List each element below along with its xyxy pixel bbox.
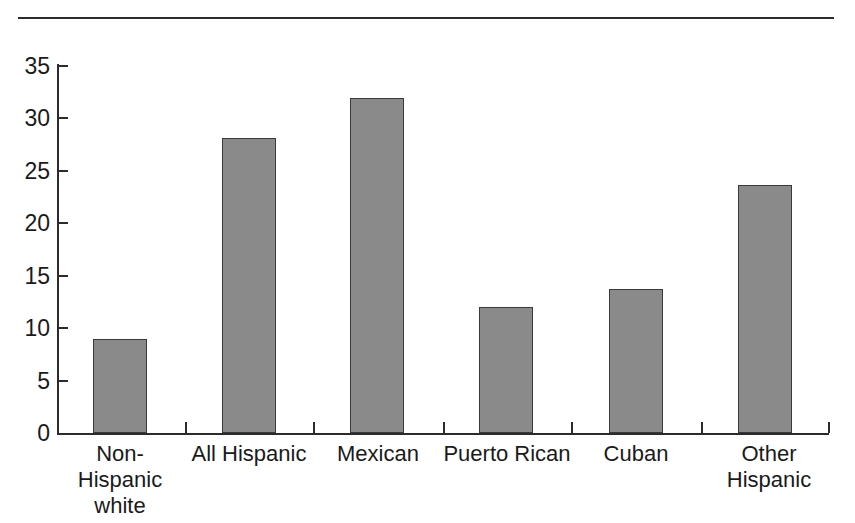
x-axis-tick-3 <box>571 422 573 433</box>
y-axis-tick-label-25: 25 <box>4 160 50 183</box>
x-axis-tick-1 <box>313 422 315 433</box>
y-axis-tick-label-15: 15 <box>4 265 50 288</box>
x-axis-label-all-hispanic: All Hispanic <box>185 441 313 467</box>
bar-other-hispanic <box>738 185 792 433</box>
y-axis-tick-label-35: 35 <box>4 55 50 78</box>
bar-non-hispanic-white <box>93 339 147 433</box>
y-axis-tick-15 <box>59 275 68 277</box>
x-axis-tick-2 <box>443 422 445 433</box>
bar-chart-figure: 35 30 25 20 15 10 5 0 Non-Hispanic white… <box>0 0 855 523</box>
y-axis-tick-label-30: 30 <box>4 107 50 130</box>
y-axis-tick-5 <box>59 380 68 382</box>
y-axis-tick-10 <box>59 327 68 329</box>
x-axis-tick-5 <box>828 422 830 433</box>
x-axis-tick-4 <box>701 422 703 433</box>
y-axis-tick-label-5: 5 <box>4 370 50 393</box>
bar-all-hispanic <box>222 138 276 433</box>
bar-mexican <box>350 98 404 433</box>
y-axis-tick-label-20: 20 <box>4 212 50 235</box>
x-axis-label-cuban: Cuban <box>571 441 701 467</box>
y-axis-tick-25 <box>59 170 68 172</box>
y-axis-tick-30 <box>59 117 68 119</box>
x-axis-tick-0 <box>185 422 187 433</box>
y-axis-tick-35 <box>59 65 68 67</box>
y-axis-tick-label-0: 0 <box>4 422 50 445</box>
y-axis-tick-label-10: 10 <box>4 317 50 340</box>
x-axis-label-mexican: Mexican <box>313 441 443 467</box>
x-axis-line <box>57 433 829 435</box>
y-axis-tick-20 <box>59 222 68 224</box>
bar-puerto-rican <box>479 307 533 433</box>
x-axis-label-other-hispanic: Other Hispanic <box>699 441 839 493</box>
x-axis-label-non-hispanic-white: Non-Hispanic white <box>55 441 185 519</box>
x-axis-label-puerto-rican: Puerto Rican <box>443 441 571 467</box>
bar-cuban <box>609 289 663 433</box>
